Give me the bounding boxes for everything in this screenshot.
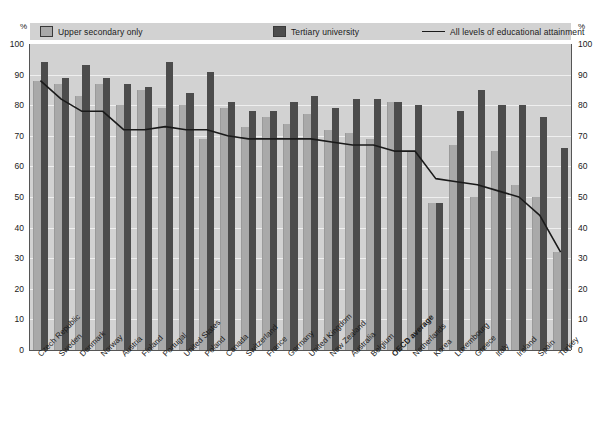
y-tick-label: 40 [2, 223, 24, 233]
y-tick-label: 40 [578, 223, 600, 233]
y-tick-label: 90 [2, 70, 24, 80]
line-series [30, 44, 571, 350]
y-tick-label: 60 [2, 161, 24, 171]
y-tick-label: 100 [578, 39, 600, 49]
square-light-icon [40, 26, 53, 37]
line-icon [422, 31, 445, 32]
chart-legend: Upper secondary only Tertiary university… [30, 23, 571, 40]
y-tick-label: 0 [578, 345, 600, 355]
legend-label: Upper secondary only [58, 27, 143, 37]
legend-label: All levels of educational attainment [450, 27, 584, 37]
legend-item-upper-secondary[interactable]: Upper secondary only [40, 23, 143, 40]
y-tick-label: 50 [2, 192, 24, 202]
y-tick-label: 50 [578, 192, 600, 202]
y-tick-label: 10 [578, 314, 600, 324]
y-tick-label: 100 [2, 39, 24, 49]
square-dark-icon [273, 26, 286, 37]
x-axis-ticks: Czech RepublicSwedenDenmarkNorwayAustria… [30, 352, 571, 435]
y-tick-label: 30 [2, 253, 24, 263]
y-tick-label: 20 [2, 284, 24, 294]
legend-label: Tertiary university [291, 27, 359, 37]
y-tick-label: 90 [578, 70, 600, 80]
y-tick-label: 60 [578, 161, 600, 171]
y-tick-label: 80 [2, 100, 24, 110]
y-tick-label: 20 [578, 284, 600, 294]
y-tick-label: 30 [578, 253, 600, 263]
chart-figure: % % Upper secondary only Tertiary univer… [0, 0, 603, 435]
y-tick-label: 0 [2, 345, 24, 355]
y-tick-label: 10 [2, 314, 24, 324]
y-axis-unit-left: % [20, 22, 27, 31]
y-tick-label: 70 [578, 131, 600, 141]
y-tick-label: 80 [578, 100, 600, 110]
y-tick-label: 70 [2, 131, 24, 141]
legend-item-tertiary[interactable]: Tertiary university [273, 23, 359, 40]
legend-item-all-levels[interactable]: All levels of educational attainment [422, 23, 584, 40]
plot-area [30, 44, 571, 350]
